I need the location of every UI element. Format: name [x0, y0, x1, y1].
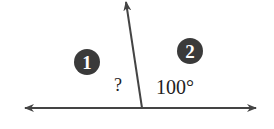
ray — [126, 2, 142, 108]
marker-2: 2 — [177, 38, 203, 64]
marker-1-label: 1 — [82, 52, 92, 73]
angle-diagram: 1 2 ? 100° — [0, 0, 274, 129]
marker-2-label: 2 — [185, 41, 195, 62]
known-angle-label: 100° — [156, 76, 194, 98]
marker-1: 1 — [74, 49, 100, 75]
unknown-angle-label: ? — [114, 75, 122, 95]
